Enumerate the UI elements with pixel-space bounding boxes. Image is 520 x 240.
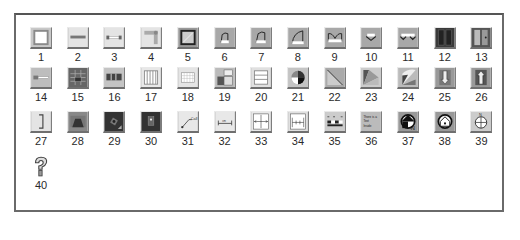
dimension-icon[interactable]: cm [214, 111, 236, 133]
palette-item-37[interactable]: N37 [390, 111, 426, 151]
palette-item-29[interactable]: 29 [96, 111, 132, 151]
palette-item-24[interactable]: 24 [390, 67, 426, 107]
bold-square-icon[interactable] [177, 27, 199, 49]
palette-item-35[interactable]: 35 [317, 111, 353, 151]
diagonal-split-icon[interactable] [324, 67, 346, 89]
medium-arch-icon[interactable] [250, 27, 272, 49]
palette-item-6[interactable]: 6 [207, 27, 243, 67]
double-bracket-icon[interactable] [397, 27, 419, 49]
palette-item-9[interactable]: 9 [317, 27, 353, 67]
palette-item-32[interactable]: cm32 [207, 111, 243, 151]
svg-text:N: N [479, 113, 482, 117]
dark-tile-icon[interactable] [140, 111, 162, 133]
palette-item-13[interactable]: 13 [463, 27, 499, 67]
fan-arc-icon[interactable] [397, 67, 419, 89]
fan-wedge-icon[interactable] [360, 67, 382, 89]
up-arrow-icon[interactable] [470, 67, 492, 89]
palette-item-27[interactable]: 27 [23, 111, 59, 151]
bar-with-end-caps-icon[interactable] [103, 27, 125, 49]
palette-item-23[interactable]: 23 [353, 67, 389, 107]
palette-item-label: 14 [23, 91, 59, 103]
palette-item-3[interactable]: 3 [96, 27, 132, 67]
palette-item-1[interactable]: 1 [23, 27, 59, 67]
square-frame-icon[interactable] [30, 27, 52, 49]
svg-text:Text: Text [364, 119, 370, 123]
compass-icon[interactable]: N [470, 111, 492, 133]
palette-item-label: 27 [23, 135, 59, 147]
single-bracket-icon[interactable] [360, 27, 382, 49]
palette-item-17[interactable]: 17 [133, 67, 169, 107]
svg-text:There is a: There is a [364, 115, 378, 119]
palette-item-label: 19 [207, 91, 243, 103]
palette-item-28[interactable]: 28 [60, 111, 96, 151]
palette-item-4[interactable]: 4 [133, 27, 169, 67]
palette-item-label: 33 [243, 135, 279, 147]
palette-item-31[interactable]: Call31 [170, 111, 206, 151]
palette-item-12[interactable]: 12 [427, 27, 463, 67]
down-arrow-icon[interactable] [434, 67, 456, 89]
fine-grid-icon[interactable] [177, 67, 199, 89]
palette-item-21[interactable]: 21 [280, 67, 316, 107]
palette-item-7[interactable]: 7 [243, 27, 279, 67]
palette-item-label: 32 [207, 135, 243, 147]
palette-item-label: 3 [96, 51, 132, 63]
dark-grid-icon[interactable] [67, 67, 89, 89]
palette-item-label: 21 [280, 91, 316, 103]
small-arch-icon[interactable] [214, 27, 236, 49]
palette-item-18[interactable]: 18 [170, 67, 206, 107]
callout-line-icon[interactable]: Call [177, 111, 199, 133]
right-bracket-icon[interactable] [30, 111, 52, 133]
palette-item-20[interactable]: 20 [243, 67, 279, 107]
horizontal-stripes-icon[interactable] [250, 67, 272, 89]
palette-item-label: 13 [463, 51, 499, 63]
svg-text:cm: cm [222, 119, 226, 123]
double-door-icon[interactable] [434, 27, 456, 49]
key-bar-icon[interactable] [30, 67, 52, 89]
palette-item-label: 22 [317, 91, 353, 103]
palette-item-2[interactable]: 2 [60, 27, 96, 67]
palette-item-19[interactable]: 19 [207, 67, 243, 107]
three-column-icon[interactable] [103, 67, 125, 89]
horizontal-bar-icon[interactable] [67, 27, 89, 49]
palette-item-25[interactable]: 25 [427, 67, 463, 107]
scale-bar-icon[interactable] [324, 111, 346, 133]
palette-item-10[interactable]: 10 [353, 27, 389, 67]
question-mark-icon[interactable] [30, 155, 52, 177]
palette-item-14[interactable]: 14 [23, 67, 59, 107]
palette-item-40[interactable]: 40 [23, 155, 59, 195]
palette-item-5[interactable]: 5 [170, 27, 206, 67]
palette-item-label: 5 [170, 51, 206, 63]
palette-item-label: 38 [427, 135, 463, 147]
cross-dimension-icon[interactable] [250, 111, 272, 133]
trapezoid-icon[interactable] [67, 111, 89, 133]
dark-tile-rotated-icon[interactable] [103, 111, 125, 133]
palette-item-33[interactable]: 33 [243, 111, 279, 151]
palette-item-30[interactable]: 30 [133, 111, 169, 151]
north-arrow-house-icon[interactable]: N [397, 111, 419, 133]
palette-item-38[interactable]: 38 [427, 111, 463, 151]
palette-item-26[interactable]: 26 [463, 67, 499, 107]
palette-item-label: 10 [353, 51, 389, 63]
palette-item-36[interactable]: There is aTextInside36 [353, 111, 389, 151]
palette-item-15[interactable]: 15 [60, 67, 96, 107]
palette-item-label: 40 [23, 179, 59, 191]
palette-item-label: 30 [133, 135, 169, 147]
palette-item-11[interactable]: 11 [390, 27, 426, 67]
vertical-lines-icon[interactable] [140, 67, 162, 89]
layout-blocks-icon[interactable] [214, 67, 236, 89]
palette-item-label: 39 [463, 135, 499, 147]
panel-door-icon[interactable] [470, 27, 492, 49]
stair-dimension-icon[interactable] [287, 111, 309, 133]
palette-item-8[interactable]: 8 [280, 27, 316, 67]
palette-item-label: 4 [133, 51, 169, 63]
palette-item-39[interactable]: N39 [463, 111, 499, 151]
large-arch-icon[interactable] [287, 27, 309, 49]
palette-item-16[interactable]: 16 [96, 67, 132, 107]
house-circle-icon[interactable] [434, 111, 456, 133]
pie-wheel-icon[interactable] [287, 67, 309, 89]
text-block-icon[interactable]: There is aTextInside [360, 111, 382, 133]
corner-block-icon[interactable] [140, 27, 162, 49]
double-arch-icon[interactable] [324, 27, 346, 49]
palette-item-34[interactable]: 34 [280, 111, 316, 151]
palette-item-22[interactable]: 22 [317, 67, 353, 107]
